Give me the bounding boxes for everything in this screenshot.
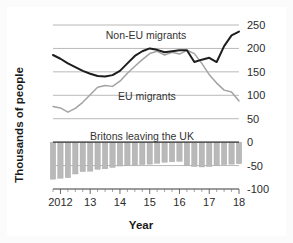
y-tick-label: 250 — [247, 19, 265, 31]
bar-britons-leaving-uk — [177, 142, 182, 161]
bar-britons-leaving-uk — [229, 142, 234, 164]
bar-britons-leaving-uk — [102, 142, 107, 169]
x-tick-label: 17 — [203, 196, 215, 208]
figure-container: 250200150100500-50-100 2012131415161718 … — [0, 0, 293, 243]
series-label-non-eu-migrants: Non-EU migrants — [106, 29, 187, 41]
bar-britons-leaving-uk — [221, 142, 226, 164]
series-label-britons-leaving-uk: Britons leaving the UK — [90, 130, 194, 142]
bar-britons-leaving-uk — [236, 142, 241, 164]
chart-canvas: 250200150100500-50-100 2012131415161718 … — [7, 7, 286, 236]
x-axis-group — [53, 189, 239, 194]
y-tick-label: 200 — [247, 42, 265, 54]
bar-britons-leaving-uk — [125, 142, 130, 165]
bars-group — [50, 142, 241, 179]
bar-britons-leaving-uk — [184, 142, 189, 165]
x-tick-label: 2012 — [48, 196, 72, 208]
bar-britons-leaving-uk — [80, 142, 85, 172]
x-tick-label: 13 — [84, 196, 96, 208]
bar-britons-leaving-uk — [140, 142, 145, 164]
bar-britons-leaving-uk — [73, 142, 78, 174]
bar-britons-leaving-uk — [199, 142, 204, 167]
y-tick-label: 50 — [247, 113, 259, 125]
bar-britons-leaving-uk — [88, 142, 93, 171]
bar-britons-leaving-uk — [132, 142, 137, 165]
bar-britons-leaving-uk — [95, 142, 100, 169]
bar-britons-leaving-uk — [192, 142, 197, 166]
migration-chart: 250200150100500-50-100 2012131415161718 … — [7, 7, 286, 236]
bar-britons-leaving-uk — [65, 142, 70, 178]
y-tick-label: 100 — [247, 89, 265, 101]
x-tick-label: 16 — [173, 196, 185, 208]
series-label-eu-migrants: EU migrants — [118, 90, 176, 102]
x-tick-label: 14 — [114, 196, 126, 208]
y-axis-title: Thousands of people — [13, 67, 25, 183]
bar-britons-leaving-uk — [147, 142, 152, 164]
y-tick-label: 150 — [247, 66, 265, 78]
x-tick-label: 15 — [144, 196, 156, 208]
y-tick-label: 0 — [247, 136, 253, 148]
bar-britons-leaving-uk — [214, 142, 219, 165]
y-tick-label: -50 — [247, 160, 263, 172]
y-tick-labels-group: 250200150100500-50-100 — [247, 19, 269, 195]
bar-britons-leaving-uk — [58, 142, 63, 178]
y-tick-label: -100 — [247, 183, 269, 195]
bar-britons-leaving-uk — [207, 142, 212, 166]
bar-britons-leaving-uk — [154, 142, 159, 163]
x-tick-labels-group: 2012131415161718 — [48, 196, 245, 208]
bar-britons-leaving-uk — [162, 142, 167, 162]
x-tick-label: 18 — [233, 196, 245, 208]
bar-britons-leaving-uk — [169, 142, 174, 162]
x-axis-title: Year — [129, 219, 154, 231]
bar-britons-leaving-uk — [50, 142, 55, 179]
bar-britons-leaving-uk — [117, 142, 122, 166]
bar-britons-leaving-uk — [110, 142, 115, 167]
